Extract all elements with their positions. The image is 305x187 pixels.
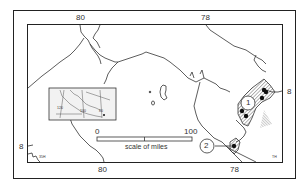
corner-mark-bottom-left: 35H: [39, 156, 45, 160]
inset-map: [49, 88, 116, 120]
site-2-dot: [232, 144, 236, 148]
map-canvas: [0, 0, 305, 187]
bottom-label-78: 78: [230, 166, 239, 174]
top-label-78: 78: [201, 14, 210, 22]
scale-bar: [97, 137, 192, 141]
right-label-8: 8: [287, 88, 291, 96]
left-label-8: 8: [19, 143, 23, 151]
inset-label-120: 120: [57, 107, 63, 111]
bottom-label-80: 80: [98, 166, 107, 174]
inset-label-80: 80: [99, 110, 103, 114]
scale-end-label: 100: [184, 128, 197, 136]
site-1-secondary-area: [260, 110, 272, 128]
site-2-label: 2: [204, 142, 208, 150]
corner-mark-bottom-right: TH: [272, 156, 277, 160]
scale-caption: scale of miles: [125, 143, 167, 150]
top-label-80: 80: [76, 14, 85, 22]
scale-start-label: 0: [95, 128, 99, 136]
inset-label-100: 100: [80, 110, 86, 114]
site-1-label: 1: [246, 99, 250, 107]
